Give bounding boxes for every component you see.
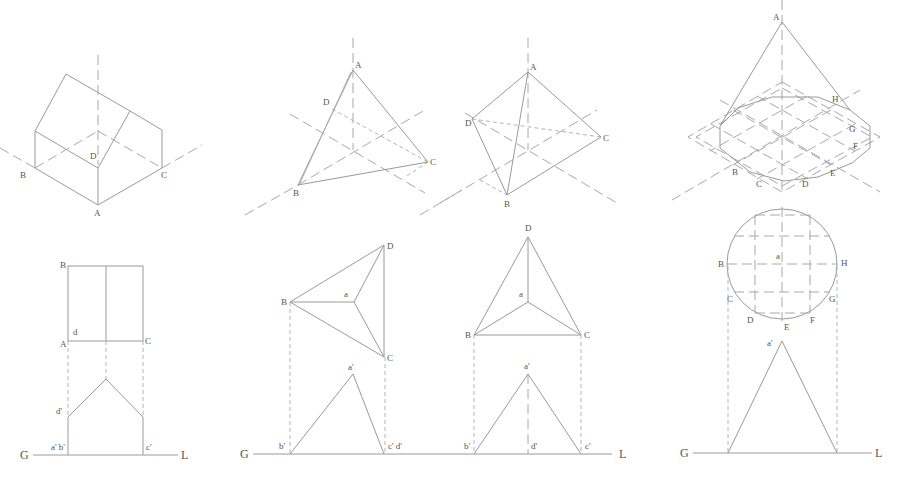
tetrahedron1-plan-view: D B C a xyxy=(281,241,394,363)
label-a: a xyxy=(344,289,348,299)
tetrahedron2-elevation-view: a' b' d' c' L xyxy=(464,335,626,461)
label-b-prime: b' xyxy=(464,441,471,451)
label-C: C xyxy=(584,330,590,340)
label-H: H xyxy=(832,94,839,104)
label-A: A xyxy=(773,12,780,22)
label-cd-prime: c' d' xyxy=(388,441,402,451)
label-ab-prime: a' b' xyxy=(51,442,65,452)
label-b-prime: b' xyxy=(279,441,286,451)
label-F: F xyxy=(810,315,815,325)
label-C: C xyxy=(603,133,609,143)
axis-right xyxy=(162,145,202,168)
cone-elevation-view: a' G L xyxy=(680,266,882,460)
label-D: D xyxy=(802,179,809,189)
label-D: D xyxy=(387,241,394,251)
label-A: A xyxy=(355,60,362,70)
label-G: G xyxy=(829,294,836,304)
label-C: C xyxy=(430,157,436,167)
label-c-prime: c' xyxy=(146,442,152,452)
label-L: L xyxy=(619,447,626,461)
house-isometric-view: B A C D xyxy=(0,55,202,218)
cone-isometric-view: A B C D E F G H xyxy=(672,0,880,200)
label-C: C xyxy=(756,179,762,189)
label-B: B xyxy=(465,330,471,340)
label-D: D xyxy=(747,315,754,325)
label-a: a xyxy=(519,289,523,299)
label-d-prime: d' xyxy=(56,406,63,416)
label-L: L xyxy=(181,448,188,462)
label-B: B xyxy=(732,167,738,177)
label-B: B xyxy=(60,260,66,270)
label-B: B xyxy=(718,259,724,269)
label-D: D xyxy=(465,118,472,128)
label-L: L xyxy=(875,446,882,460)
label-D: D xyxy=(90,151,97,161)
axis-left xyxy=(0,148,35,168)
house-elevation-view: d' a' b' c' G L xyxy=(20,341,188,462)
label-a-prime: a' xyxy=(524,361,530,371)
label-G: G xyxy=(20,448,29,462)
label-D: D xyxy=(323,97,330,107)
label-A: A xyxy=(60,339,67,349)
label-C: C xyxy=(161,170,167,180)
label-E: E xyxy=(784,322,790,332)
label-A: A xyxy=(530,62,537,72)
label-C: C xyxy=(145,336,151,346)
label-B: B xyxy=(281,297,287,307)
label-G: G xyxy=(680,446,689,460)
label-d-prime: d' xyxy=(531,441,538,451)
tetrahedron1-elevation-view: a' b' c' d' G xyxy=(240,302,612,461)
label-a: a xyxy=(776,251,780,261)
label-B: B xyxy=(20,170,26,180)
label-E: E xyxy=(830,168,836,178)
hidden-edge-dc xyxy=(98,131,162,168)
label-H: H xyxy=(841,258,848,268)
technical-drawing-canvas: B A C D B A C d d' a' b' c' G L xyxy=(0,0,912,484)
house-plan-view: B A C d xyxy=(60,260,151,349)
label-F: F xyxy=(853,141,858,151)
label-a-prime: a' xyxy=(767,338,773,348)
tetrahedron2-isometric-view: A D C B xyxy=(440,38,617,209)
label-a-prime: a' xyxy=(348,362,354,372)
cone-plan-view: a B C D E F G H xyxy=(718,207,848,332)
tetrahedron2-plan-view: D B C a xyxy=(465,223,590,340)
label-B: B xyxy=(293,188,299,198)
label-C: C xyxy=(387,353,393,363)
label-D: D xyxy=(525,223,532,233)
label-d: d xyxy=(73,327,78,337)
label-c-prime: c' xyxy=(585,441,591,451)
tetrahedron1-isometric-view: A D C B xyxy=(245,38,462,215)
label-A: A xyxy=(94,208,101,218)
label-G: G xyxy=(240,447,249,461)
label-G: G xyxy=(849,124,856,134)
label-B: B xyxy=(504,199,510,209)
